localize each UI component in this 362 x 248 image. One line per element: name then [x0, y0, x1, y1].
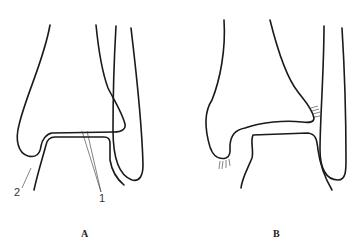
panel-a-leader-2	[22, 168, 31, 188]
panel-a-leader-1	[82, 131, 101, 192]
label-1: 1	[99, 192, 105, 204]
panel-b-drawing	[206, 20, 346, 190]
panel-b-tibia	[206, 20, 314, 159]
panel-a-fibula	[113, 26, 143, 180]
panel-b-hatch-medial	[219, 159, 230, 169]
panel-b-talus	[241, 133, 332, 190]
panel-a-drawing	[17, 25, 143, 192]
panel-b-caption: B	[273, 228, 280, 239]
ankle-diagram	[0, 0, 362, 248]
panel-a-caption: A	[81, 228, 88, 239]
panel-b-fibula	[320, 26, 346, 180]
label-2: 2	[14, 186, 20, 198]
panel-a-talus	[34, 137, 124, 190]
